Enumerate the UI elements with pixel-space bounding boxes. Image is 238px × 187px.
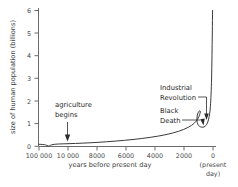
agriculture-begins-line1: agriculture (55, 101, 92, 109)
black-death-arrow-head (200, 119, 205, 126)
x-tick-label-4000: 4000 (147, 152, 163, 160)
industrial-revolution-line2: Revolution (160, 94, 196, 102)
y-tick-marks (35, 11, 39, 147)
annotation-black-death: Black Death (160, 107, 205, 126)
annotation-agriculture-begins: agriculture begins (55, 101, 92, 142)
y-tick-label-1: 1 (27, 120, 31, 128)
chart-canvas: 6 5 4 3 2 1 0 100 000 10 000 8000 6000 4… (0, 0, 238, 187)
present-day-label-line1: (present (200, 161, 227, 169)
black-death-line1: Black (160, 107, 178, 115)
x-tick-label-10000: 10 000 (57, 152, 79, 160)
x-tick-label-0: 0 (211, 152, 215, 160)
x-tick-label-6000: 6000 (118, 152, 134, 160)
y-tick-label-6: 6 (27, 7, 31, 15)
x-axis-title: years before present day (69, 161, 152, 169)
industrial-revolution-line1: Industrial (160, 84, 192, 92)
y-tick-label-0: 0 (27, 143, 31, 151)
x-tick-label-8000: 8000 (89, 152, 105, 160)
x-tick-marks (39, 147, 213, 151)
y-tick-labels: 6 5 4 3 2 1 0 (27, 7, 31, 151)
x-tick-label-100000: 100 000 (26, 152, 52, 160)
black-death-line2: Death (160, 117, 181, 125)
agriculture-begins-line2: begins (55, 111, 78, 119)
y-tick-label-5: 5 (27, 30, 31, 38)
industrial-revolution-arrow-head (204, 114, 209, 121)
x-tick-label-2000: 2000 (176, 152, 192, 160)
axes-group (39, 8, 217, 147)
agriculture-arrow-head (65, 135, 70, 142)
population-growth-chart: 6 5 4 3 2 1 0 100 000 10 000 8000 6000 4… (0, 0, 238, 187)
present-day-label-line2: day) (206, 170, 220, 178)
y-axis-title: size of human population (billions) (9, 20, 17, 134)
population-curve (39, 11, 213, 147)
y-tick-label-4: 4 (27, 52, 31, 60)
y-tick-label-2: 2 (27, 98, 31, 106)
y-tick-label-3: 3 (27, 75, 31, 83)
